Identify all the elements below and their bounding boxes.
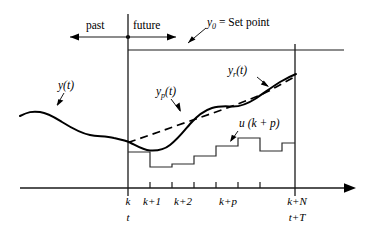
setpoint-equals: =	[216, 16, 228, 28]
label-reference-trajectory: yr(t)	[227, 64, 247, 79]
axis-label-k-plus-p: k+p	[219, 195, 237, 207]
reference-trajectory-curve	[128, 76, 296, 143]
label-past: past	[86, 19, 105, 32]
label-future: future	[133, 19, 160, 31]
figure-root: past future y0 = Set point	[0, 0, 368, 235]
setpoint-text: Set point	[228, 16, 270, 29]
control-suffix: (k + p)	[245, 117, 280, 130]
measured-curve-annotation: y(t)	[57, 79, 74, 106]
time-axis-arrowhead-icon	[344, 183, 356, 193]
future-arrowhead-icon	[167, 34, 176, 41]
axis-label-k-plus-1: k+1	[143, 195, 161, 207]
axis-tick-labels: k t k+1 k+2 k+p k+N t+T	[126, 195, 308, 223]
time-axis	[20, 182, 356, 193]
predicted-curve-leader-arrowhead-icon	[175, 103, 181, 112]
horizon-span-annotation: past future	[70, 19, 176, 41]
past-arrowhead-icon	[70, 34, 79, 41]
axis-label-k-plus-2: k+2	[174, 195, 192, 207]
axis-sublabel-t: t	[126, 211, 130, 223]
axis-label-k: k	[126, 195, 132, 207]
control-staircase	[128, 138, 295, 167]
reference-curve-annotation: yr(t)	[227, 64, 269, 87]
control-leader-arrowhead-icon	[230, 135, 237, 142]
measured-curve-leader-arrowhead-icon	[57, 99, 63, 106]
label-measured-output: y(t)	[57, 79, 74, 92]
setpoint-label: y0 = Set point	[206, 16, 270, 31]
label-predicted-output: yp(t)	[155, 85, 176, 100]
label-control-move: u (k + p)	[239, 117, 280, 130]
predictive-control-diagram: past future y0 = Set point	[0, 0, 368, 235]
axis-label-k-plus-N: k+N	[287, 195, 307, 207]
axis-sublabel-t-plus-T: t+T	[289, 211, 306, 223]
predicted-suffix: (t)	[165, 85, 176, 98]
predicted-curve-annotation: yp(t)	[155, 85, 181, 112]
measured-symbol: y(t)	[57, 79, 74, 92]
reference-suffix: (t)	[236, 64, 247, 77]
